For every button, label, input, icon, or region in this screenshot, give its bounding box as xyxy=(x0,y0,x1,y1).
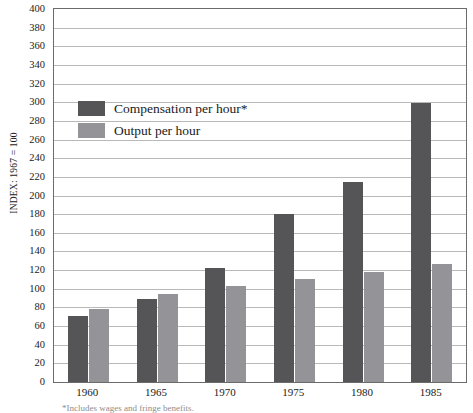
plot-area xyxy=(53,8,467,383)
y-axis-tick-label: 0 xyxy=(40,377,45,387)
x-axis-tick-label-1985: 1985 xyxy=(396,386,465,398)
bars-layer xyxy=(54,9,466,382)
bar-output-1965 xyxy=(158,294,178,382)
y-axis-tick-label: 160 xyxy=(29,228,45,238)
x-axis-tick-label-1980: 1980 xyxy=(328,386,397,398)
y-axis-tick-labels: 0204060801001201401601802002202402602803… xyxy=(0,8,49,383)
y-axis-tick-label: 80 xyxy=(35,302,46,312)
legend: Compensation per hour* Output per hour xyxy=(78,99,247,143)
bar-output-1985 xyxy=(432,264,452,382)
y-axis-tick-label: 120 xyxy=(29,265,45,275)
bar-compensation-1985 xyxy=(411,103,431,382)
bar-output-1980 xyxy=(364,272,384,382)
y-axis-tick-label: 260 xyxy=(29,135,45,145)
y-axis-tick-label: 140 xyxy=(29,246,45,256)
bar-output-1960 xyxy=(89,309,109,382)
bar-output-1970 xyxy=(226,286,246,382)
y-axis-tick-label: 220 xyxy=(29,172,45,182)
y-axis-tick-label: 100 xyxy=(29,284,45,294)
y-axis-tick-label: 60 xyxy=(35,321,46,331)
legend-label-compensation: Compensation per hour* xyxy=(114,101,247,116)
y-axis-tick-label: 380 xyxy=(29,23,45,33)
y-axis-tick-label: 340 xyxy=(29,60,45,70)
x-axis-tick-label-1975: 1975 xyxy=(259,386,328,398)
bar-compensation-1980 xyxy=(343,182,363,382)
x-axis-tick-label-1965: 1965 xyxy=(122,386,191,398)
y-axis-tick-label: 200 xyxy=(29,191,45,201)
bar-compensation-1960 xyxy=(68,316,88,382)
bar-chart: INDEX: 1967 = 100 0204060801001201401601… xyxy=(0,0,473,413)
legend-swatch-output-icon xyxy=(78,123,105,138)
x-axis-tick-label-1960: 1960 xyxy=(53,386,122,398)
y-axis-tick-label: 240 xyxy=(29,153,45,163)
legend-label-output: Output per hour xyxy=(114,123,200,138)
legend-item-output: Output per hour xyxy=(78,121,247,140)
y-axis-tick-label: 280 xyxy=(29,116,45,126)
y-axis-tick-label: 360 xyxy=(29,41,45,51)
y-axis-tick-label: 40 xyxy=(35,340,46,350)
footnote: *Includes wages and fringe benefits. xyxy=(62,403,462,413)
bar-compensation-1970 xyxy=(205,268,225,382)
legend-item-compensation: Compensation per hour* xyxy=(78,99,247,118)
x-axis-tick-label-1970: 1970 xyxy=(190,386,259,398)
y-axis-tick-label: 320 xyxy=(29,79,45,89)
bar-compensation-1965 xyxy=(137,299,157,382)
y-axis-tick-label: 20 xyxy=(35,358,46,368)
y-axis-tick-label: 180 xyxy=(29,209,45,219)
x-axis-tick-labels: 196019651970197519801985 xyxy=(53,386,467,402)
bar-output-1975 xyxy=(295,279,315,382)
legend-swatch-compensation-icon xyxy=(78,101,105,116)
y-axis-tick-label: 300 xyxy=(29,97,45,107)
y-axis-tick-label: 400 xyxy=(29,4,45,14)
bar-compensation-1975 xyxy=(274,214,294,382)
